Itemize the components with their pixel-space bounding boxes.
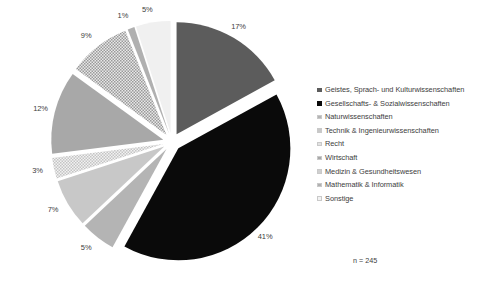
pie-svg (0, 0, 300, 288)
legend-item-label: Naturwissenschaften (325, 113, 393, 120)
legend-item-label: Sonstige (325, 195, 353, 202)
legend-item[interactable]: Gesellschafts- & Sozialwissenschaften (317, 97, 483, 111)
legend-item[interactable]: Mathematik & Informatik (317, 178, 483, 192)
legend-item-label: Gesellschafts- & Sozialwissenschaften (325, 100, 450, 107)
chart-legend: Geistes, Sprach- und Kulturwissenschafte… (317, 83, 483, 205)
slice-value-label: 12% (33, 104, 48, 113)
legend-swatch-icon (317, 101, 322, 106)
legend-item[interactable]: Technik & Ingenieurwissenschaften (317, 124, 483, 138)
legend-swatch-icon (317, 169, 322, 174)
legend-item[interactable]: Wirtschaft (317, 151, 483, 165)
legend-item[interactable]: Medizin & Gesundheitswesen (317, 165, 483, 179)
legend-swatch-icon (317, 196, 322, 201)
legend-swatch-icon (317, 156, 322, 161)
legend-item[interactable]: Geistes, Sprach- und Kulturwissenschafte… (317, 83, 483, 97)
sample-size-annotation: n = 245 (353, 256, 377, 265)
slice-value-label: 9% (81, 31, 92, 40)
pie-slice-group (51, 21, 290, 260)
pie-plot-area: 17%41%5%7%3%12%9%1%5% (0, 0, 300, 288)
legend-swatch-icon (317, 128, 322, 133)
legend-item-label: Recht (325, 140, 344, 147)
legend-item-label: Technik & Ingenieurwissenschaften (325, 127, 439, 134)
legend-swatch-icon (317, 142, 322, 147)
legend-item[interactable]: Naturwissenschaften (317, 110, 483, 124)
slice-value-label: 7% (48, 205, 59, 214)
legend-swatch-icon (317, 88, 322, 93)
slice-value-label: 3% (32, 166, 43, 175)
legend-item-label: Medizin & Gesundheitswesen (325, 168, 421, 175)
legend-item-label: Wirtschaft (325, 154, 357, 161)
slice-value-label: 41% (258, 232, 273, 241)
legend-item-label: Geistes, Sprach- und Kulturwissenschafte… (325, 86, 464, 93)
legend-swatch-icon (317, 115, 322, 120)
slice-value-label: 5% (81, 243, 92, 252)
pie-chart: 17%41%5%7%3%12%9%1%5% Geistes, Sprach- u… (0, 0, 486, 288)
slice-value-label: 1% (118, 11, 129, 20)
slice-value-label: 5% (142, 5, 153, 14)
slice-value-label: 17% (231, 22, 246, 31)
legend-swatch-icon (317, 183, 322, 188)
legend-item[interactable]: Sonstige (317, 192, 483, 206)
legend-item-label: Mathematik & Informatik (325, 181, 404, 188)
legend-item[interactable]: Recht (317, 137, 483, 151)
